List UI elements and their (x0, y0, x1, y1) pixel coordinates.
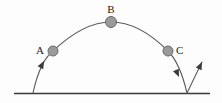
landing-arrow-icon (173, 69, 182, 79)
ball-b (106, 17, 117, 28)
ball-c (163, 46, 173, 56)
ball-b-label: B (107, 3, 114, 15)
projectile-diagram: A B C (0, 0, 222, 103)
projectile-arc (33, 22, 187, 93)
rebound-arrow-icon (196, 61, 205, 71)
ball-a-label: A (36, 44, 44, 56)
diagram-canvas: A B C (0, 0, 222, 103)
ball-a (48, 46, 58, 56)
ball-c-label: C (176, 44, 183, 56)
launch-arrow-icon (38, 59, 47, 69)
